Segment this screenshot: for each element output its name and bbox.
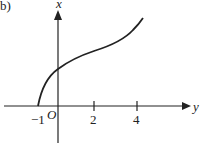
- tick-label-2: 2: [90, 112, 97, 127]
- horizontal-axis-label: y: [191, 99, 199, 114]
- origin-label: O: [47, 107, 57, 122]
- horizontal-axis-arrow-icon: [182, 102, 191, 110]
- panel-label: b): [0, 0, 11, 13]
- tick-label-4: 4: [133, 112, 140, 127]
- graph-canvas: b) y x −1 2 4 O: [0, 0, 200, 145]
- vertical-axis-arrow-icon: [54, 10, 62, 20]
- tick-label-neg1: −1: [31, 112, 45, 127]
- vertical-axis-label: x: [55, 0, 62, 11]
- function-curve: [38, 18, 143, 106]
